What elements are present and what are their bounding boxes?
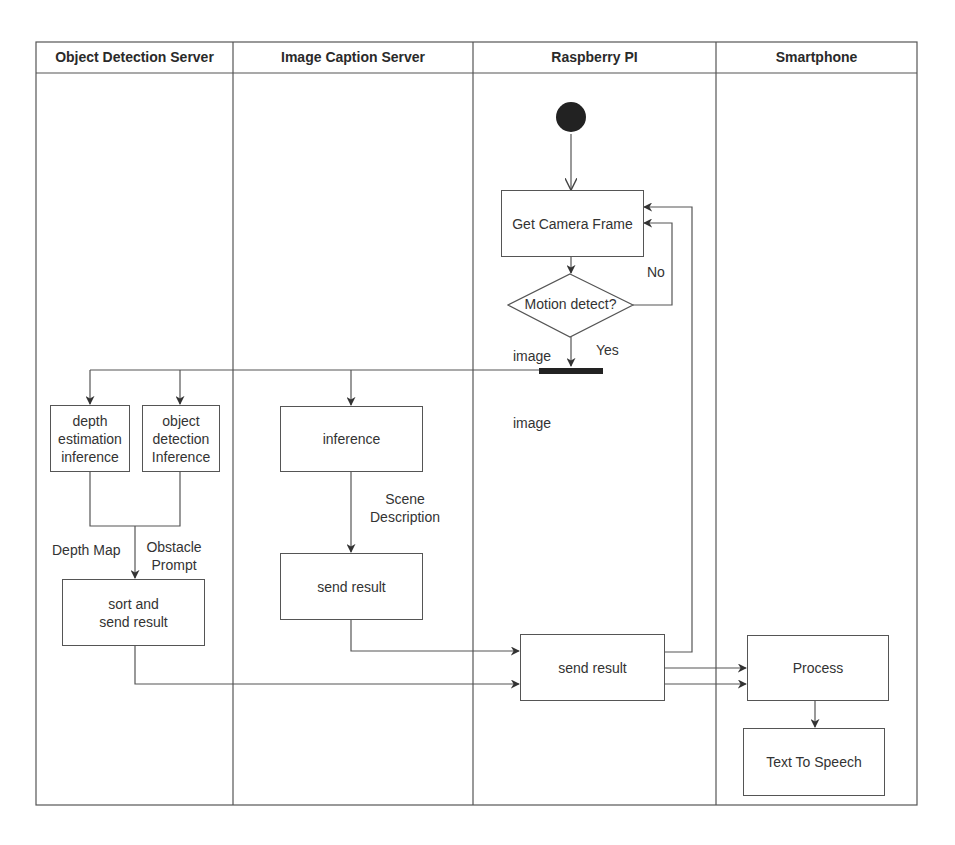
node-label-line: detection xyxy=(153,430,210,448)
node-get-camera-frame: Get Camera Frame xyxy=(501,190,644,257)
node-label-line: object xyxy=(162,412,199,430)
lane-title-image-caption-server: Image Caption Server xyxy=(233,42,473,73)
edge-sort-to-rpi xyxy=(135,646,519,684)
node-label-line: depth xyxy=(72,412,107,430)
node-label: inference xyxy=(323,430,381,448)
edge-label-no: No xyxy=(647,263,665,281)
edge-caption-to-rpi xyxy=(351,620,519,651)
node-object-detection: object detection Inference xyxy=(142,405,220,472)
node-label: Text To Speech xyxy=(766,753,861,771)
node-label-line: Inference xyxy=(152,448,210,466)
node-process: Process xyxy=(747,635,889,701)
node-text-to-speech: Text To Speech xyxy=(743,728,885,796)
initial-node xyxy=(556,102,586,132)
node-label-line: inference xyxy=(61,448,119,466)
lane-title-object-detection-server: Object Detection Server xyxy=(36,42,233,73)
label-line: Obstacle xyxy=(140,538,208,556)
edge-label-image-top: image xyxy=(513,347,551,365)
node-caption-inference: inference xyxy=(280,406,423,472)
node-label-line: estimation xyxy=(58,430,122,448)
edge-label-image-lower: image xyxy=(513,414,551,432)
node-label: Process xyxy=(793,659,844,677)
label-line: Description xyxy=(364,508,446,526)
lane-title-smartphone: Smartphone xyxy=(716,42,917,73)
node-caption-send-result: send result xyxy=(280,553,423,620)
edge-join-detection xyxy=(90,472,180,526)
node-label-line: send result xyxy=(99,613,167,631)
node-depth-estimation: depth estimation inference xyxy=(50,405,130,472)
fork-bar xyxy=(539,368,603,374)
node-sort-and-send: sort and send result xyxy=(62,579,205,646)
node-label: Get Camera Frame xyxy=(512,215,633,233)
label-line: Scene xyxy=(364,490,446,508)
decision-label: Motion detect? xyxy=(508,296,633,312)
node-label-line: sort and xyxy=(108,595,159,613)
node-label: send result xyxy=(317,578,385,596)
edge-label-scene-description: Scene Description xyxy=(364,490,446,526)
edge-label-yes: Yes xyxy=(596,341,619,359)
label-line: Prompt xyxy=(140,556,208,574)
lane-title-raspberry-pi: Raspberry PI xyxy=(473,42,716,73)
node-label: send result xyxy=(558,659,626,677)
edge-label-depth-map: Depth Map xyxy=(52,541,120,559)
edge-label-obstacle-prompt: Obstacle Prompt xyxy=(140,538,208,574)
node-rpi-send-result: send result xyxy=(520,634,665,701)
